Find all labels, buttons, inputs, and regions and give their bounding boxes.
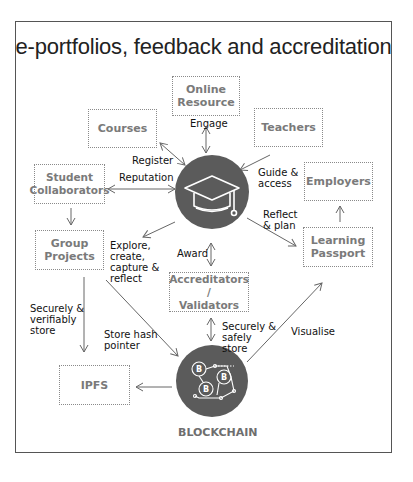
- node-teachers: Teachers: [254, 108, 323, 147]
- edge-label-award: Award: [177, 248, 208, 259]
- edge-label-visualise: Visualise: [291, 326, 335, 337]
- node-accreditators: Accreditators / Validators: [169, 272, 249, 312]
- edge-label-securely-verifiably: Securely & verifiably store: [30, 303, 84, 336]
- edge-label-explore: Explore, create, capture & reflect: [110, 240, 159, 284]
- node-online-resource: Online Resource: [172, 76, 240, 116]
- bitcoin-network-icon: B B B: [176, 345, 248, 417]
- edge-label-register: Register: [132, 155, 173, 166]
- edge-label-reflect-plan: Reflect & plan: [263, 209, 298, 231]
- node-courses: Courses: [88, 109, 157, 148]
- node-employers: Employers: [304, 162, 373, 201]
- graduation-cap-icon: [175, 155, 249, 229]
- explore-arrow: [143, 222, 175, 237]
- node-ipfs: IPFS: [59, 365, 130, 405]
- edge-label-guide-access: Guide & access: [258, 167, 298, 189]
- edge-label-reputation: Reputation: [119, 172, 174, 183]
- node-blockchain-label: BLOCKCHAIN: [178, 426, 258, 439]
- svg-text:B: B: [196, 365, 202, 374]
- node-learning-passport: Learning Passport: [303, 227, 373, 267]
- edge-label-engage: Engage: [190, 118, 228, 129]
- node-group-projects: Group Projects: [35, 230, 104, 270]
- edge-label-securely-safely: Securely & safely store: [222, 321, 276, 354]
- node-student-collaborators: Student Collaborators: [34, 164, 105, 204]
- svg-text:B: B: [221, 373, 227, 382]
- svg-text:B: B: [203, 385, 209, 394]
- edge-label-store-hash: Store hash pointer: [104, 329, 158, 351]
